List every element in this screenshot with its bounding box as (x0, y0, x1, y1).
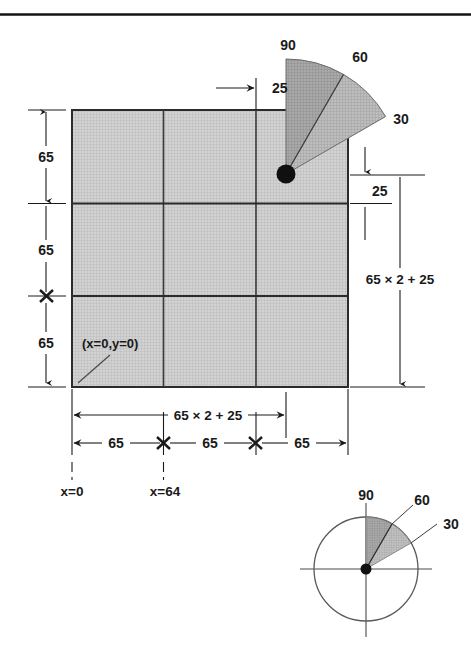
inset-angle-label-30: 30 (443, 516, 459, 532)
left-dim-65-bot: 65 (38, 335, 54, 351)
inset-leader-30 (411, 524, 437, 543)
angle-label-90: 90 (280, 37, 296, 53)
x-tick-label-64: x=64 (150, 484, 181, 499)
left-dim-65-mid: 65 (38, 242, 54, 258)
technical-diagram: (x=0,y=0) 90 60 30 65 65 6 (0, 0, 471, 666)
left-dim-65-top: 65 (38, 149, 54, 165)
inset-angle-label-60: 60 (414, 492, 430, 508)
angle-label-60: 60 (352, 49, 368, 65)
angle-label-30: 30 (393, 111, 409, 127)
top-dim-25: 25 (272, 80, 288, 96)
top-offset-dimension: 25 (216, 78, 288, 110)
inset-leader-60 (392, 505, 413, 524)
left-dimension-group: 65 65 65 (28, 110, 66, 387)
right-dim-total: 65 × 2 + 25 (366, 272, 435, 287)
bottom-dimension-group: 65 × 2 + 25 65 65 65 (72, 389, 348, 455)
origin-label: (x=0,y=0) (82, 336, 138, 351)
bottom-dim-65-mid: 65 (202, 435, 218, 451)
sensor-origin-dot (277, 165, 296, 184)
right-dim-25: 25 (372, 183, 388, 199)
bottom-dim-total: 65 × 2 + 25 (174, 408, 243, 423)
inset-angle-label-90: 90 (358, 487, 374, 503)
right-dimension-group: 25 65 × 2 + 25 (350, 147, 435, 387)
inset-origin-dot (361, 564, 372, 575)
inset-circle-diagram: 90 60 30 (300, 487, 459, 637)
bottom-dim-65-left: 65 (108, 435, 124, 451)
x-tick-group: x=0 x=64 (61, 462, 181, 499)
x-tick-label-0: x=0 (61, 484, 84, 499)
bottom-dim-65-right: 65 (294, 435, 310, 451)
